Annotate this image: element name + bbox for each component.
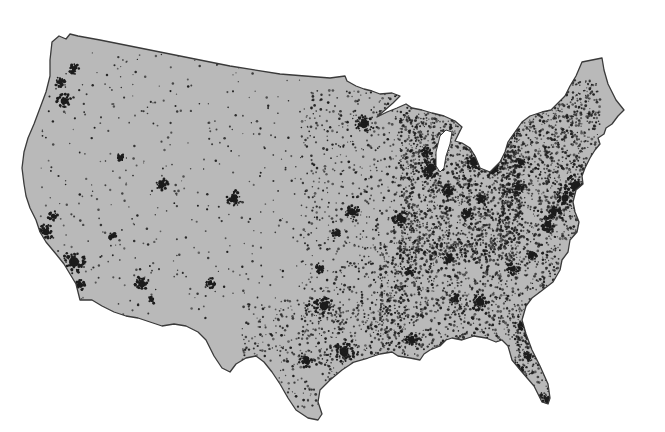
city-cluster: [594, 150, 613, 167]
city-cluster: [590, 167, 601, 178]
contiguous-us-landmass: [22, 34, 624, 420]
us-population-dot-map: [0, 0, 665, 432]
map-container: Population distribution, contiguous Unit…: [0, 0, 665, 432]
